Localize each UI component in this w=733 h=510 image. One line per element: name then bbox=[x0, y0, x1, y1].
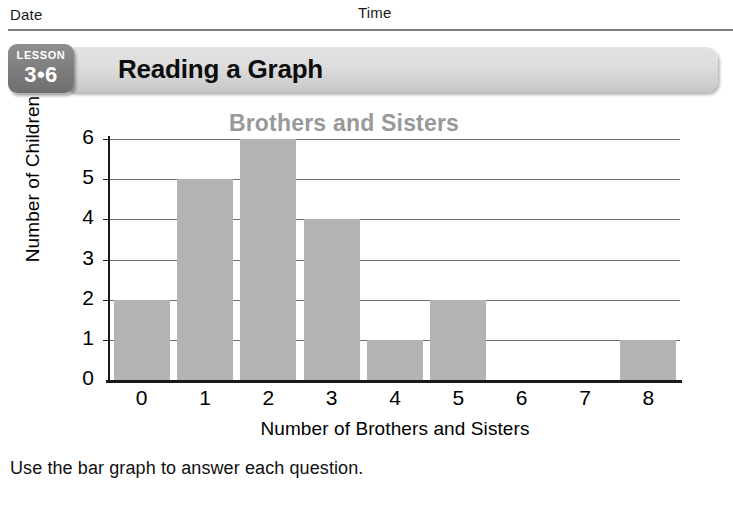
date-time-rule bbox=[8, 29, 733, 31]
bar bbox=[304, 219, 360, 380]
y-tick-label: 4 bbox=[68, 205, 94, 229]
plot-area bbox=[110, 139, 680, 380]
y-tick-mark bbox=[103, 179, 110, 180]
y-tick-label: 0 bbox=[68, 366, 94, 390]
y-tick-mark bbox=[103, 340, 110, 341]
y-tick-mark bbox=[103, 260, 110, 261]
x-axis-title: Number of Brothers and Sisters bbox=[110, 418, 680, 440]
y-tick-mark bbox=[103, 139, 110, 140]
x-tick-label: 2 bbox=[248, 386, 288, 410]
x-tick-label: 8 bbox=[628, 386, 668, 410]
bar-chart: Brothers and Sisters Number of Children … bbox=[0, 100, 733, 445]
x-tick-label: 6 bbox=[502, 386, 542, 410]
date-label: Date bbox=[10, 6, 43, 23]
y-tick-label: 3 bbox=[68, 246, 94, 270]
bar bbox=[367, 340, 423, 380]
instruction-text: Use the bar graph to answer each questio… bbox=[10, 458, 363, 479]
bar bbox=[240, 139, 296, 380]
x-axis-line bbox=[106, 380, 682, 383]
y-tick-mark bbox=[103, 300, 110, 301]
y-tick-label: 1 bbox=[68, 326, 94, 350]
bar bbox=[620, 340, 676, 380]
x-tick-label: 7 bbox=[565, 386, 605, 410]
chart-title: Brothers and Sisters bbox=[0, 110, 733, 137]
x-tick-label: 0 bbox=[122, 386, 162, 410]
x-tick-label: 5 bbox=[438, 386, 478, 410]
bar bbox=[430, 300, 486, 380]
y-tick-label: 2 bbox=[68, 286, 94, 310]
bar bbox=[114, 300, 170, 380]
gridline bbox=[110, 139, 680, 140]
y-tick-label: 6 bbox=[68, 125, 94, 149]
y-tick-label: 5 bbox=[68, 165, 94, 189]
x-tick-label: 4 bbox=[375, 386, 415, 410]
lesson-badge-word: LESSON bbox=[8, 44, 74, 62]
lesson-banner: LESSON 3•6 Reading a Graph bbox=[8, 44, 710, 95]
time-label: Time bbox=[358, 4, 392, 21]
y-tick-mark bbox=[103, 219, 110, 220]
x-tick-label: 3 bbox=[312, 386, 352, 410]
bar bbox=[177, 179, 233, 380]
x-tick-label: 1 bbox=[185, 386, 225, 410]
date-time-header: Date Time bbox=[0, 0, 733, 32]
page-title: Reading a Graph bbox=[118, 54, 323, 85]
y-axis-title: Number of Children bbox=[22, 64, 44, 294]
